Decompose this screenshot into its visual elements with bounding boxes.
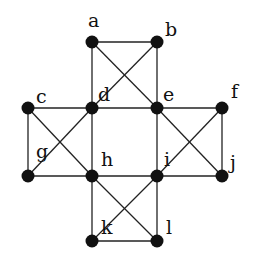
edges-group	[28, 42, 222, 241]
nodes-group	[22, 36, 229, 248]
node-label-c: c	[36, 85, 47, 107]
node-label-b: b	[165, 18, 177, 40]
node-label-i: i	[164, 148, 170, 170]
node-g	[22, 170, 35, 183]
node-f	[216, 102, 229, 115]
node-label-g: g	[36, 140, 48, 162]
node-j	[216, 170, 229, 183]
node-label-l: l	[166, 216, 172, 238]
node-h	[86, 170, 99, 183]
node-a	[86, 36, 99, 49]
node-e	[151, 102, 164, 115]
node-label-a: a	[88, 9, 99, 31]
node-label-e: e	[163, 83, 174, 105]
node-label-k: k	[101, 216, 113, 238]
graph-diagram: abcdefghijkl	[0, 0, 256, 269]
node-c	[22, 102, 35, 115]
node-b	[151, 36, 164, 49]
node-label-d: d	[98, 83, 110, 105]
node-label-f: f	[231, 80, 240, 102]
labels-group: abcdefghijkl	[36, 9, 240, 238]
node-d	[86, 102, 99, 115]
node-l	[151, 235, 164, 248]
node-label-h: h	[101, 148, 113, 170]
node-k	[86, 235, 99, 248]
node-i	[151, 170, 164, 183]
node-label-j: j	[228, 151, 236, 173]
